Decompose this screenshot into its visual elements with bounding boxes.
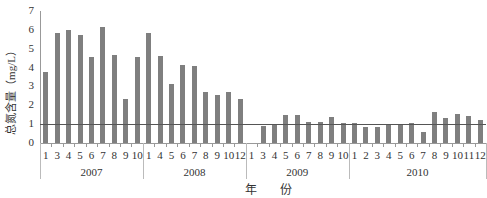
year-divider	[40, 143, 41, 179]
x-tick	[189, 143, 190, 147]
month-label: 9	[120, 149, 132, 161]
year-divider	[143, 143, 144, 179]
month-label: 7	[188, 149, 200, 161]
month-label: 1	[143, 149, 155, 161]
x-tick	[463, 143, 464, 147]
bar	[112, 55, 117, 143]
bar	[375, 127, 380, 143]
month-label: 11	[463, 149, 475, 161]
x-tick	[406, 143, 407, 147]
bar	[386, 125, 391, 143]
month-label: 6	[85, 149, 97, 161]
month-label: 10	[451, 149, 463, 161]
x-tick	[475, 143, 476, 147]
bar	[66, 30, 71, 143]
bar	[272, 125, 277, 143]
x-tick	[326, 143, 327, 147]
year-label: 2007	[71, 166, 111, 178]
month-label: 10	[131, 149, 143, 161]
x-tick	[86, 143, 87, 147]
bar	[203, 92, 208, 143]
x-axis-title: 年 份	[245, 180, 302, 198]
year-divider	[246, 143, 247, 179]
x-tick	[212, 143, 213, 147]
month-label: 6	[291, 149, 303, 161]
month-label: 9	[211, 149, 223, 161]
bar	[146, 33, 151, 143]
x-tick	[372, 143, 373, 147]
month-label: 3	[51, 149, 63, 161]
month-label: 4	[268, 149, 280, 161]
month-label: 6	[177, 149, 189, 161]
bar	[100, 27, 105, 143]
bar	[123, 99, 128, 143]
reference-line	[40, 124, 486, 125]
month-label: 6	[406, 149, 418, 161]
month-label: 4	[383, 149, 395, 161]
month-label: 8	[314, 149, 326, 161]
x-tick	[314, 143, 315, 147]
month-label: 2	[360, 149, 372, 161]
x-tick	[74, 143, 75, 147]
bar	[421, 132, 426, 143]
month-label: 9	[326, 149, 338, 161]
month-label: 8	[200, 149, 212, 161]
y-tick-label: 4	[24, 62, 34, 73]
bar	[89, 57, 94, 143]
x-tick	[395, 143, 396, 147]
y-tick-label: 5	[24, 43, 34, 54]
month-label: 5	[280, 149, 292, 161]
x-tick	[360, 143, 361, 147]
bar	[363, 127, 368, 143]
bar	[352, 123, 357, 143]
bar	[192, 66, 197, 143]
x-tick	[337, 143, 338, 147]
x-tick	[280, 143, 281, 147]
y-tick-label: 1	[24, 118, 34, 129]
month-label: 1	[348, 149, 360, 161]
x-tick	[452, 143, 453, 147]
month-label: 3	[257, 149, 269, 161]
month-label: 5	[394, 149, 406, 161]
x-tick	[223, 143, 224, 147]
bar	[398, 125, 403, 143]
month-label: 4	[154, 149, 166, 161]
bar	[409, 123, 414, 143]
bar	[283, 115, 288, 143]
x-tick	[97, 143, 98, 147]
year-label: 2008	[174, 166, 214, 178]
y-tick-label: 7	[24, 5, 34, 16]
month-label: 7	[303, 149, 315, 161]
bar	[43, 72, 48, 143]
month-label: 10	[223, 149, 235, 161]
y-tick-label: 3	[24, 80, 34, 91]
x-tick	[51, 143, 52, 147]
bar	[169, 84, 174, 143]
x-tick	[429, 143, 430, 147]
month-label: 7	[97, 149, 109, 161]
x-tick	[269, 143, 270, 147]
month-label: 12	[234, 149, 246, 161]
month-label: 3	[371, 149, 383, 161]
bar	[329, 117, 334, 143]
x-tick	[417, 143, 418, 147]
bar	[215, 95, 220, 143]
bar	[78, 35, 83, 143]
month-label: 8	[108, 149, 120, 161]
bar	[180, 65, 185, 143]
x-tick	[303, 143, 304, 147]
bar	[261, 126, 266, 143]
bar	[135, 57, 140, 143]
bar	[306, 122, 311, 143]
x-tick	[257, 143, 258, 147]
x-tick	[109, 143, 110, 147]
x-tick	[166, 143, 167, 147]
bar	[238, 99, 243, 143]
x-tick	[120, 143, 121, 147]
bar	[226, 92, 231, 143]
bar	[443, 118, 448, 143]
bar	[341, 123, 346, 143]
x-tick	[292, 143, 293, 147]
bar	[455, 114, 460, 143]
